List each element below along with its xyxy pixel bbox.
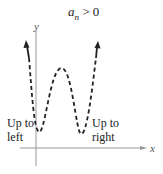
annotation-left-line1: Up to (7, 116, 34, 130)
x-axis-label: x (150, 142, 155, 154)
y-axis-label: y (34, 20, 39, 32)
left-end-segment (27, 46, 29, 58)
right-end-segment (96, 47, 97, 58)
x-axis-arrow-icon (140, 146, 147, 150)
left-arrow-icon (24, 40, 30, 48)
polynomial-curve (29, 58, 96, 134)
annotation-right-line1: Up to (92, 116, 119, 130)
annotation-left-line2: left (7, 130, 34, 144)
annotation-up-to-right: Up to right (92, 116, 119, 144)
annotation-up-to-left: Up to left (7, 116, 34, 144)
annotation-right-line2: right (92, 130, 119, 144)
graph-title: an > 0 (68, 4, 99, 22)
graph (0, 0, 163, 174)
right-arrow-icon (95, 41, 101, 49)
title-relation: > 0 (79, 4, 99, 19)
